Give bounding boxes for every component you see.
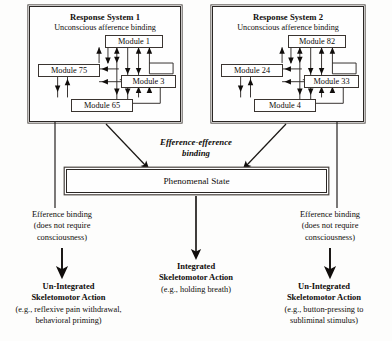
- outcome-right: Un-Integrated Skeletomotor Action (e.g.,…: [256, 281, 392, 327]
- outcome-left: Un-Integrated Skeletomotor Action (e.g.,…: [0, 281, 137, 327]
- outcome-middle-title-line-2: Skeletomotor Action: [134, 272, 258, 283]
- efference-binding-right-line-2: (does not require: [271, 220, 389, 231]
- outcome-right-title-line-1: Un-Integrated: [256, 281, 392, 292]
- efference-efference-line-2: binding: [140, 148, 252, 159]
- module-box[interactable]: Module 82: [288, 35, 346, 48]
- efference-binding-right-line-3: consciousness): [271, 232, 389, 243]
- efference-efference-binding-label: Efference-efference binding: [140, 137, 252, 160]
- outcome-middle: Integrated Skeletomotor Action (e.g., ho…: [134, 261, 258, 295]
- outcome-middle-title-line-1: Integrated: [134, 261, 258, 272]
- module-box[interactable]: Module 3: [121, 75, 176, 88]
- efference-binding-right-label: Efference binding (does not require cons…: [271, 209, 389, 243]
- arrow-system2-to-phenomenal: [246, 124, 286, 166]
- module-box[interactable]: Module 4: [254, 99, 316, 112]
- efference-binding-right-line-1: Efference binding: [271, 209, 389, 220]
- efference-binding-left-line-1: Efference binding: [3, 209, 121, 220]
- efference-binding-left-line-3: consciousness): [3, 232, 121, 243]
- efference-efference-line-1: Efference-efference: [140, 137, 252, 148]
- outcome-left-title-line-1: Un-Integrated: [0, 281, 137, 292]
- phenomenal-state-box[interactable]: Phenomenal State: [66, 169, 327, 193]
- outcome-right-example-line-2: subliminal stimulus): [256, 315, 392, 326]
- outcome-left-example-line-1: (e.g., reflexive pain withdrawal,: [0, 304, 137, 315]
- module-box[interactable]: Module 1: [105, 35, 163, 48]
- outcome-middle-example-line-1: (e.g., holding breath): [134, 284, 258, 295]
- response-system-2-box: Response System 2 Unconscious afference …: [212, 6, 364, 122]
- outcome-right-example-line-1: (e.g., button-pressing to: [256, 304, 392, 315]
- efference-binding-left-line-2: (does not require: [3, 220, 121, 231]
- module-box[interactable]: Module 33: [304, 75, 359, 88]
- module-box[interactable]: Module 65: [71, 99, 133, 112]
- response-system-1-box: Response System 1 Unconscious afference …: [29, 6, 181, 122]
- diagram-canvas: Response System 1 Unconscious afference …: [0, 0, 392, 341]
- module-box[interactable]: Module 75: [38, 64, 100, 77]
- module-box[interactable]: Module 24: [221, 64, 283, 77]
- outcome-left-title-line-2: Skeletomotor Action: [0, 292, 137, 303]
- outcome-right-title-line-2: Skeletomotor Action: [256, 292, 392, 303]
- outcome-left-example-line-2: behavioral priming): [0, 315, 137, 326]
- efference-binding-left-label: Efference binding (does not require cons…: [3, 209, 121, 243]
